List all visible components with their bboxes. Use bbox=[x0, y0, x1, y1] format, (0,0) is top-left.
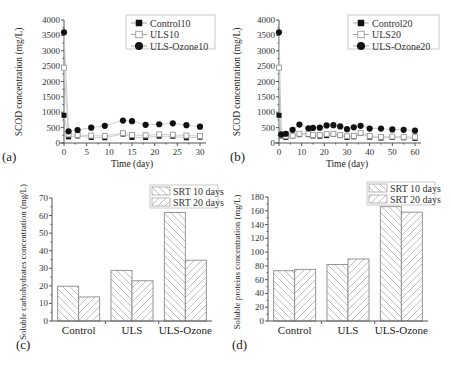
data-point bbox=[345, 134, 350, 139]
data-point bbox=[120, 117, 126, 123]
legend-label: SRT 10 days bbox=[390, 183, 441, 194]
bar bbox=[401, 212, 422, 321]
data-point bbox=[290, 133, 295, 138]
data-point bbox=[351, 124, 357, 130]
data-point bbox=[330, 122, 336, 128]
data-point bbox=[277, 113, 282, 118]
y-tick-label: 30 bbox=[39, 263, 49, 273]
y-tick-label: 3500 bbox=[257, 30, 276, 40]
legend-swatch-icon bbox=[369, 195, 387, 203]
data-point bbox=[143, 122, 149, 128]
y-tick-label: 1500 bbox=[257, 92, 276, 102]
panel-d-proteins: 020406080100120140160180ControlULSULS-Oz… bbox=[232, 182, 441, 352]
data-point bbox=[378, 125, 384, 131]
legend-label: ULS-Ozone20 bbox=[372, 41, 430, 52]
bar bbox=[327, 265, 348, 321]
y-tick-label: 180 bbox=[251, 192, 265, 202]
bar bbox=[380, 207, 401, 321]
legend-label: SRT 10 days bbox=[173, 186, 224, 197]
x-tick-label: 50 bbox=[388, 147, 398, 157]
series-line bbox=[64, 68, 200, 136]
data-point bbox=[358, 130, 363, 135]
x-tick-label: 20 bbox=[150, 147, 160, 157]
category-label: ULS bbox=[122, 324, 143, 336]
x-tick-label: 40 bbox=[365, 147, 375, 157]
data-point bbox=[337, 123, 343, 129]
data-point bbox=[296, 121, 302, 127]
y-tick-label: 0 bbox=[271, 138, 276, 148]
x-tick-label: 25 bbox=[173, 147, 183, 157]
data-point bbox=[310, 125, 316, 131]
category-label: Control bbox=[278, 324, 312, 336]
legend-marker-icon bbox=[358, 20, 365, 27]
y-tick-label: 3000 bbox=[42, 46, 61, 56]
bar bbox=[295, 269, 316, 321]
y-tick-label: 20 bbox=[39, 281, 49, 291]
y-tick-label: 3500 bbox=[42, 30, 61, 40]
data-point bbox=[130, 133, 135, 138]
data-point bbox=[157, 132, 162, 137]
category-label: Control bbox=[62, 324, 96, 336]
data-point bbox=[277, 65, 282, 70]
data-point bbox=[358, 123, 364, 129]
legend-marker-icon bbox=[136, 20, 143, 27]
data-point bbox=[317, 133, 322, 138]
panel-b-xlabel: Time (day) bbox=[326, 159, 368, 170]
data-point bbox=[317, 125, 323, 131]
y-tick-label: 2500 bbox=[42, 61, 61, 71]
panel-a-xlabel: Time (day) bbox=[111, 159, 153, 170]
data-point bbox=[62, 65, 67, 70]
bar bbox=[185, 260, 206, 321]
y-tick-label: 0 bbox=[44, 316, 49, 326]
figure: 0500100015002000250030003500400005101520… bbox=[0, 0, 451, 372]
data-point bbox=[143, 133, 148, 138]
panel-d-label: (d) bbox=[232, 337, 247, 352]
legend-swatch-icon bbox=[152, 198, 170, 206]
y-tick-label: 60 bbox=[255, 275, 265, 285]
panel-a-legend: Control10ULS10ULS-Ozone10 bbox=[126, 15, 215, 52]
data-point bbox=[412, 128, 418, 134]
y-tick-label: 500 bbox=[47, 123, 61, 133]
data-point bbox=[390, 134, 395, 139]
y-tick-label: 0 bbox=[56, 138, 61, 148]
x-tick-label: 0 bbox=[62, 147, 67, 157]
y-tick-label: 1000 bbox=[42, 107, 61, 117]
bar bbox=[348, 259, 369, 321]
y-tick-label: 40 bbox=[39, 246, 49, 256]
x-tick-label: 15 bbox=[128, 147, 138, 157]
data-point bbox=[120, 131, 125, 136]
legend-label: ULS10 bbox=[150, 29, 179, 40]
data-point bbox=[331, 131, 336, 136]
category-label: ULS bbox=[338, 324, 359, 336]
data-point bbox=[170, 132, 175, 137]
panel-d-plot: 020406080100120140160180ControlULSULS-Oz… bbox=[251, 192, 429, 336]
bar bbox=[111, 270, 132, 321]
legend-label: ULS20 bbox=[372, 29, 401, 40]
data-point bbox=[344, 126, 350, 132]
data-point bbox=[102, 123, 108, 129]
y-tick-label: 50 bbox=[39, 228, 49, 238]
y-tick-label: 10 bbox=[39, 298, 49, 308]
data-point bbox=[338, 133, 343, 138]
bar bbox=[164, 212, 185, 321]
x-tick-label: 20 bbox=[320, 147, 330, 157]
panel-a-ylabel: SCOD concentration (mg/L) bbox=[14, 28, 25, 137]
panel-b-label: (b) bbox=[230, 149, 245, 164]
data-point bbox=[183, 122, 189, 128]
y-tick-label: 160 bbox=[251, 206, 265, 216]
y-tick-label: 140 bbox=[251, 220, 265, 230]
bar bbox=[79, 297, 100, 321]
data-point bbox=[351, 133, 356, 138]
data-point bbox=[401, 134, 406, 139]
data-point bbox=[75, 133, 80, 138]
y-tick-label: 4000 bbox=[42, 15, 61, 25]
data-point bbox=[75, 127, 81, 133]
panel-a-scod-srt10: 0500100015002000250030003500400005101520… bbox=[2, 15, 215, 170]
x-tick-label: 30 bbox=[196, 147, 206, 157]
y-tick-label: 3000 bbox=[257, 46, 276, 56]
legend-label: Control20 bbox=[372, 18, 413, 29]
x-tick-label: 30 bbox=[343, 147, 353, 157]
x-tick-label: 10 bbox=[105, 147, 115, 157]
data-point bbox=[389, 126, 395, 132]
data-point bbox=[61, 29, 67, 35]
